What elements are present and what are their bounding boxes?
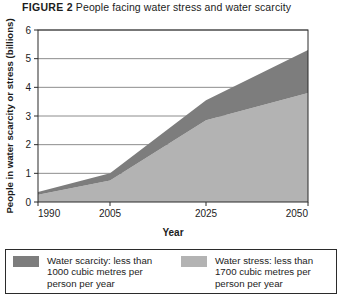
x-axis-title: Year: [162, 227, 183, 238]
x-axis-tick-label: 1990: [38, 208, 61, 219]
figure-container: FIGURE 2 People facing water stress and …: [0, 0, 344, 300]
y-axis: 0123456: [25, 25, 38, 208]
y-axis-title: People in water scarcity or stress (bill…: [4, 18, 15, 213]
chart-legend: Water scarcity: less than 1000 cubic met…: [5, 249, 337, 294]
figure-number: FIGURE 2: [22, 1, 73, 13]
legend-label-water-scarcity: Water scarcity: less than 1000 cubic met…: [47, 255, 152, 289]
x-axis-tick-label: 2005: [99, 208, 122, 219]
x-axis-tick-label: 2025: [195, 208, 218, 219]
legend-item-water-stress: Water stress: less than 1700 cubic metre…: [177, 250, 336, 289]
x-axis-tick-label: 2050: [286, 208, 309, 219]
legend-swatch-water-stress: [181, 256, 207, 267]
x-axis: 1990200520252050: [38, 202, 308, 219]
y-axis-tick-label: 4: [25, 82, 31, 93]
y-axis-tick-label: 2: [25, 139, 31, 150]
y-axis-tick-label: 1: [25, 168, 31, 179]
stacked-area-chart: 0123456 1990200520252050 Year People in …: [0, 14, 344, 246]
y-axis-tick-label: 6: [25, 25, 31, 36]
legend-swatch-water-scarcity: [13, 256, 39, 267]
legend-label-water-stress: Water stress: less than 1700 cubic metre…: [215, 255, 313, 289]
y-axis-tick-label: 5: [25, 53, 31, 64]
figure-title-text: People facing water stress and water sca…: [76, 1, 291, 13]
y-axis-tick-label: 0: [25, 197, 31, 208]
figure-title: FIGURE 2 People facing water stress and …: [22, 1, 291, 13]
y-axis-tick-label: 3: [25, 111, 31, 122]
legend-item-water-scarcity: Water scarcity: less than 1000 cubic met…: [6, 250, 177, 289]
chart-area: 0123456 1990200520252050 Year People in …: [0, 14, 344, 246]
